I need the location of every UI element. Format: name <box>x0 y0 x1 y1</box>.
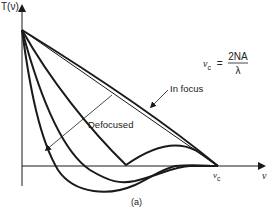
in-focus-arrow <box>151 90 168 107</box>
in-focus-label: In focus <box>170 83 203 94</box>
figure-caption: (a) <box>131 197 142 207</box>
cutoff-frequency-label: νc <box>213 170 220 182</box>
x-axis-label: ν <box>262 170 266 181</box>
curve-defocus-4 <box>22 30 218 192</box>
mtf-diagram <box>0 0 271 212</box>
formula-numerator: 2NA <box>226 51 250 62</box>
formula-denominator: λ <box>226 65 250 76</box>
formula-lhs: νc = <box>203 58 223 71</box>
y-axis-label: T(ν) <box>1 1 19 12</box>
defocused-label: Defocused <box>88 119 133 130</box>
